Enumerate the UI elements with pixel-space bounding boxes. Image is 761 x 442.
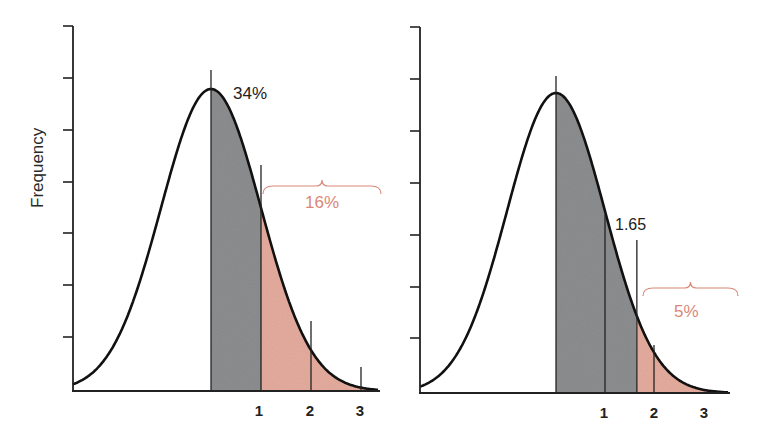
label-cutoff-1-65: 1.65 (615, 216, 646, 233)
label-5-percent: 5% (674, 302, 699, 321)
figure-canvas: 34% 16% 1 2 3 1.65 5% 1 2 3 (0, 0, 761, 442)
figure: 34% 16% 1 2 3 1.65 5% 1 2 3 Frequency (0, 0, 761, 442)
x-tick-1: 1 (600, 404, 608, 421)
left-chart: 34% 16% 1 2 3 (63, 26, 381, 419)
label-34-percent: 34% (233, 84, 267, 103)
mean-to-1sd-area (211, 89, 261, 391)
right-chart: 1.65 5% 1 2 3 (410, 27, 738, 421)
x-tick-1: 1 (255, 402, 263, 419)
x-tick-3: 3 (700, 404, 708, 421)
mean-to-cutoff-area (556, 93, 637, 393)
tail-brace (263, 180, 381, 194)
x-tick-3: 3 (356, 402, 364, 419)
label-16-percent: 16% (305, 193, 339, 212)
x-tick-2: 2 (306, 402, 314, 419)
x-tick-2: 2 (650, 404, 658, 421)
y-axis-label: Frequency (28, 128, 48, 208)
tail-brace (643, 282, 738, 296)
